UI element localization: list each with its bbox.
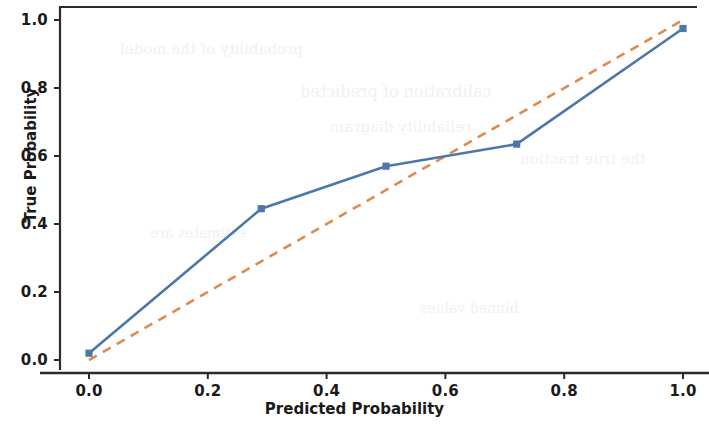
x-tick-label: 1.0: [653, 382, 709, 400]
plot-area: [0, 0, 709, 427]
x-tick-label: 0.0: [59, 382, 119, 400]
x-tick-label: 0.2: [178, 382, 238, 400]
calibration-chart-figure: probability of the model calibration of …: [0, 0, 709, 427]
x-tick-label: 0.4: [297, 382, 357, 400]
data-point-marker: [513, 141, 520, 148]
y-tick-label: 1.0: [2, 11, 48, 29]
data-point-marker: [679, 25, 686, 32]
y-tick-label: 0.8: [2, 79, 48, 97]
x-tick-label: 0.8: [534, 382, 594, 400]
data-point-marker: [85, 350, 92, 357]
y-tick-label: 0.0: [2, 351, 48, 369]
x-tick-label: 0.6: [415, 382, 475, 400]
y-tick-label: 0.2: [2, 283, 48, 301]
y-tick-label: 0.6: [2, 147, 48, 165]
data-point-marker: [258, 205, 265, 212]
perfect-calibration-reference-line: [89, 20, 683, 360]
data-point-marker: [382, 163, 389, 170]
y-tick-label: 0.4: [2, 215, 48, 233]
x-axis-label: Predicted Probability: [0, 400, 709, 418]
